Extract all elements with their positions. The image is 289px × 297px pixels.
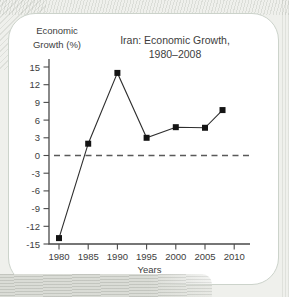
y-tick-label: -3	[32, 168, 40, 179]
page-texture-bottom	[0, 274, 212, 297]
data-point-marker	[202, 125, 208, 131]
x-tick-label: 2000	[165, 251, 186, 262]
x-tick-label: 1985	[78, 251, 99, 262]
x-tick-label: 2010	[224, 251, 245, 262]
y-tick-label: 9	[35, 97, 40, 108]
data-point-marker	[114, 70, 120, 76]
data-point-marker	[220, 107, 226, 113]
x-tick-label: 2005	[194, 251, 215, 262]
y-tick-label: -15	[26, 239, 40, 250]
y-tick-label: -6	[32, 185, 40, 196]
y-tick-label: 15	[29, 62, 40, 73]
y-tick-label: 12	[29, 79, 40, 90]
y-tick-label: 3	[35, 132, 40, 143]
data-point-marker	[56, 235, 62, 241]
data-point-marker	[85, 141, 91, 147]
data-point-marker	[173, 124, 179, 130]
x-tick-label: 1990	[107, 251, 128, 262]
chart-svg: 15129630-3-6-9-12-1519801985199019952000…	[9, 14, 280, 286]
page-texture-right	[282, 0, 289, 297]
y-tick-label: -12	[26, 221, 40, 232]
x-tick-label: 1995	[136, 251, 157, 262]
axes	[49, 59, 250, 244]
y-tick-label: 6	[35, 115, 40, 126]
chart-card: Economic Growth (%) Iran: Economic Growt…	[8, 13, 279, 285]
y-tick-label: -9	[32, 203, 40, 214]
data-point-marker	[144, 135, 150, 141]
x-tick-label: 1980	[48, 251, 69, 262]
y-tick-label: 0	[35, 150, 40, 161]
